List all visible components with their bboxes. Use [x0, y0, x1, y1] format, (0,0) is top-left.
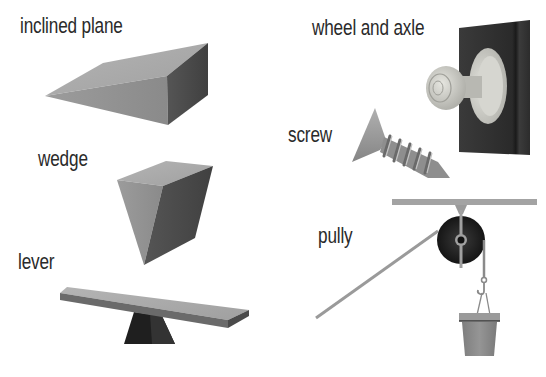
wedge-shape [117, 161, 213, 265]
diagram-artwork [0, 0, 546, 377]
wheel-and-axle-shape [426, 20, 530, 155]
label-pulley: pully [318, 225, 353, 247]
screw-shape [352, 108, 450, 178]
label-screw: screw [288, 124, 332, 146]
inclined-plane-shape [45, 43, 208, 125]
label-wheel-and-axle: wheel and axle [312, 17, 424, 39]
label-inclined-plane: inclined plane [20, 15, 123, 37]
label-wedge: wedge [38, 148, 88, 170]
simple-machines-diagram: inclined plane wedge lever wheel and axl… [0, 0, 546, 377]
label-lever: lever [18, 251, 54, 273]
lever-shape [60, 287, 249, 344]
